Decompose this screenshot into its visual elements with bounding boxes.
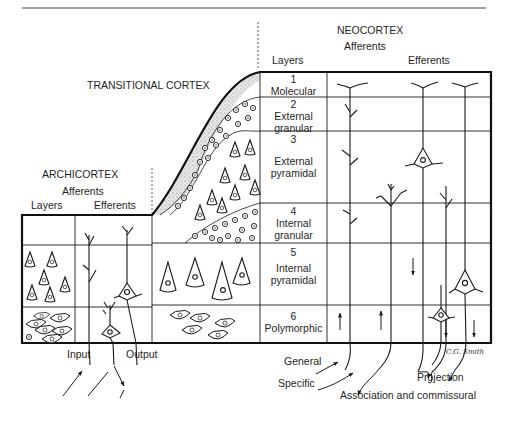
neocortex-title: NEOCORTEX [337, 24, 403, 36]
association-label: Association and commissural [340, 389, 476, 401]
transitional-polymorphs [170, 310, 235, 339]
neocortex-efferents-label: Efferents [408, 54, 450, 66]
neocortex-efferents [405, 82, 483, 372]
archicortex-pyramids [25, 252, 70, 302]
input-label: Input [67, 348, 90, 360]
cortex-outline [22, 72, 491, 343]
layer-5: 5 Internal pyramidal [260, 246, 327, 305]
archicortex-afferents-label: Afferents [62, 185, 104, 197]
transitional-title: TRANSITIONAL CORTEX [87, 79, 210, 91]
layer-4: 4 Internal granular [260, 205, 327, 243]
layer-3: 3 External pyramidal [260, 133, 327, 203]
neocortex-afferents [337, 83, 452, 372]
archicortex-polymorphs [26, 312, 72, 343]
neocortex-afferents-label: Afferents [344, 40, 386, 52]
archicortex-title: ARCHICORTEX [42, 168, 118, 180]
neocortex-layers-label: Layers [272, 54, 304, 66]
layer-1: 1 Molecular [260, 73, 327, 97]
specific-label: Specific [278, 377, 315, 389]
layer-2: 2 External granular [260, 98, 327, 131]
general-label: General [284, 355, 321, 367]
output-label: Output [126, 348, 158, 360]
projection-label: Projection [417, 371, 464, 383]
transitional-large-pyramids [160, 258, 250, 300]
direction-arrows [340, 258, 474, 337]
archicortex-efferents-label: Efferents [94, 199, 136, 211]
archicortex-layers-label: Layers [31, 199, 63, 211]
artist-signature: C.G. Smith [446, 346, 484, 358]
layer-6: 6 Polymorphic [260, 310, 327, 343]
archicortex-neurons [83, 226, 142, 365]
